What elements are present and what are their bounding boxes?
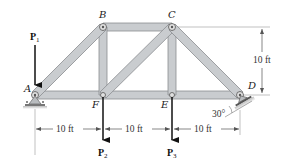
dimension-span-1: 10 ft — [56, 124, 74, 134]
joint-label-B: B — [98, 9, 106, 20]
pin-E — [170, 93, 175, 98]
pin-F — [101, 93, 106, 98]
member-FC — [100, 24, 175, 98]
joint-label-D: D — [247, 80, 256, 91]
joint-label-E: E — [160, 99, 169, 110]
member-bottom-chord — [35, 91, 240, 99]
force-label-P2: P2 — [98, 147, 108, 160]
joint-label-C: C — [168, 9, 176, 20]
force-label-P3: P3 — [167, 147, 177, 160]
truss-diagram: 30° P1 P2 P3 A B C D F E 10 ft 10 ft 10 … — [0, 0, 286, 166]
joint-label-F: F — [91, 99, 100, 110]
dimension-height-label: 10 ft — [253, 55, 271, 65]
member-BF — [99, 27, 107, 95]
truss-members — [32, 23, 243, 99]
member-BC — [103, 23, 172, 31]
member-CE — [168, 27, 176, 95]
dimension-span-2: 10 ft — [125, 124, 143, 134]
angle-label: 30° — [212, 109, 226, 119]
dimension-span-3: 10 ft — [194, 124, 212, 134]
member-AB — [32, 24, 106, 98]
force-label-P1: P1 — [30, 31, 40, 44]
member-CD — [169, 24, 243, 98]
joint-label-A: A — [23, 83, 31, 94]
